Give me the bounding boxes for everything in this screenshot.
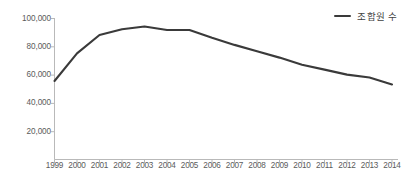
y-tick-label: 100,000 (5, 14, 51, 23)
chart-canvas (0, 0, 405, 185)
axis-group (55, 18, 399, 160)
y-tick-label: 80,000 (5, 42, 51, 51)
y-axis-ticks (51, 19, 55, 132)
x-axis-labels: 1999200020012002200320042005200620072008… (0, 161, 405, 175)
series-line-membership (55, 26, 393, 84)
x-tick-label: 2014 (375, 161, 405, 171)
line-chart-figure: 조합원 수 20,00040,00060,00080,000100,000 19… (0, 0, 405, 185)
y-axis-labels: 20,00040,00060,00080,000100,000 (0, 0, 51, 185)
y-tick-label: 20,000 (5, 127, 51, 136)
y-tick-label: 40,000 (5, 98, 51, 107)
plot-area: 20,00040,00060,00080,000100,000 19992000… (0, 0, 405, 185)
y-tick-label: 60,000 (5, 70, 51, 79)
